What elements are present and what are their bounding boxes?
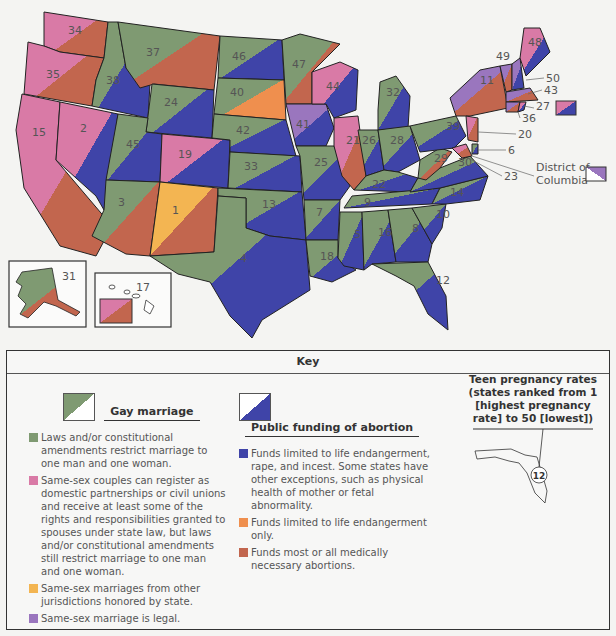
rank-mi: 32 xyxy=(386,86,400,99)
abortion-funding-column: Public funding of abortion Funds limited… xyxy=(239,393,435,576)
rank-wv: 29 xyxy=(434,152,448,165)
rank-nj: 20 xyxy=(518,128,532,141)
abortion-funding-swatch-icon xyxy=(239,393,271,421)
rank-ak: 31 xyxy=(62,270,76,283)
orange-swatch-icon xyxy=(239,518,248,527)
dc-callout-swatch xyxy=(586,167,606,181)
rank-tn: 9 xyxy=(364,196,371,209)
teen-pregnancy-column: Teen pregnancy rates (states ranked from… xyxy=(463,373,603,507)
abortion-funding-header: Public funding of abortion xyxy=(239,393,435,437)
rank-ri: 27 xyxy=(536,100,550,113)
teen-pregnancy-heading-1: Teen pregnancy rates xyxy=(463,373,603,386)
state-nm xyxy=(150,182,218,256)
teen-pregnancy-heading-4: rate] to 50 [lowest]) xyxy=(463,412,603,425)
legend-item-restrict: Laws and/or constitutional amendments re… xyxy=(29,431,227,470)
gay-marriage-heading: Gay marriage xyxy=(104,405,199,421)
rank-hi: 17 xyxy=(136,281,150,294)
legend-item-most-all: Funds most or all medically necessary ab… xyxy=(239,546,435,572)
rank-fl: 12 xyxy=(436,274,450,287)
rank-id: 38 xyxy=(106,74,120,87)
rank-in: 26 xyxy=(362,134,376,147)
rank-vt: 49 xyxy=(496,50,510,63)
gay-marriage-swatch-icon xyxy=(63,393,95,421)
rank-mt: 37 xyxy=(146,46,160,59)
rank-md: 23 xyxy=(504,170,518,183)
state-ri xyxy=(518,102,526,112)
rank-tx: 4 xyxy=(240,252,247,265)
rank-ut: 45 xyxy=(126,138,140,151)
state-ny xyxy=(450,66,508,116)
key-title: Key xyxy=(7,351,609,374)
brown-swatch-icon xyxy=(239,548,248,557)
rank-ga: 8 xyxy=(412,222,419,235)
rank-sd: 40 xyxy=(230,86,244,99)
dc-label-line2: Columbia xyxy=(536,174,588,187)
rank-va: 30 xyxy=(458,156,472,169)
teen-pregnancy-heading-2: (states ranked from 1 xyxy=(463,386,603,399)
rank-il: 21 xyxy=(346,134,360,147)
map-key: Key Gay marriage Laws and/or constitutio… xyxy=(6,350,610,630)
rank-ks: 33 xyxy=(244,160,258,173)
rank-sc: 10 xyxy=(436,208,450,221)
teen-pregnancy-heading-3: [highest pregnancy xyxy=(463,399,603,412)
rank-ca: 15 xyxy=(32,126,46,139)
rank-ma: 43 xyxy=(544,84,558,97)
rank-wa: 34 xyxy=(68,24,82,37)
state-mi xyxy=(378,76,410,130)
gay-marriage-header: Gay marriage xyxy=(63,393,227,421)
rank-wy: 24 xyxy=(164,96,178,109)
rank-me: 48 xyxy=(528,36,542,49)
rank-de: 6 xyxy=(508,144,515,157)
purple-swatch-icon xyxy=(29,614,38,623)
state-hi-swatch xyxy=(100,299,132,323)
rank-la: 18 xyxy=(320,250,334,263)
rank-nd: 46 xyxy=(232,50,246,63)
rank-wi: 44 xyxy=(326,80,340,93)
rank-mo: 25 xyxy=(314,156,328,169)
state-wy xyxy=(146,84,214,138)
rank-ar: 7 xyxy=(316,206,323,219)
ri-callout-swatch xyxy=(556,101,576,115)
us-map: 34 35 15 2 38 37 24 45 19 3 1 46 40 42 3… xyxy=(0,0,616,340)
legend-item-honored: Same-sex marriages from other jurisdicti… xyxy=(29,582,227,608)
rank-az: 3 xyxy=(118,196,125,209)
state-de xyxy=(472,144,478,154)
rank-nv: 2 xyxy=(80,122,87,135)
state-ms xyxy=(338,212,364,270)
rank-oh: 28 xyxy=(390,134,404,147)
green-swatch-icon xyxy=(29,433,38,442)
rank-ok: 13 xyxy=(262,198,276,211)
state-fl xyxy=(372,262,448,330)
state-sd xyxy=(214,78,286,120)
rank-mn: 47 xyxy=(292,58,306,71)
rank-or: 35 xyxy=(46,68,60,81)
pink-swatch-icon xyxy=(29,476,38,485)
dc-label-line1: District of xyxy=(536,161,591,174)
florida-example-icon: 12 xyxy=(463,427,603,507)
rank-pa: 39 xyxy=(446,120,460,133)
rank-co: 19 xyxy=(178,148,192,161)
rank-ky: 22 xyxy=(372,178,386,191)
state-ia xyxy=(286,104,334,146)
rank-nm: 1 xyxy=(172,204,179,217)
yellow-swatch-icon xyxy=(29,584,38,593)
legend-item-partnerships: Same-sex couples can register as domesti… xyxy=(29,474,227,578)
gay-marriage-column: Gay marriage Laws and/or constitutional … xyxy=(29,393,227,629)
legend-item-limited-exceptions: Funds limited to life endangerment, rape… xyxy=(239,447,435,512)
abortion-funding-heading: Public funding of abortion xyxy=(245,421,419,437)
blue-swatch-icon xyxy=(239,449,248,458)
state-ks xyxy=(228,152,302,192)
rank-ny: 11 xyxy=(480,74,494,87)
rank-ms: 5 xyxy=(354,228,361,241)
rank-ne: 42 xyxy=(236,124,250,137)
rank-ia: 41 xyxy=(296,118,310,131)
legend-item-life-only: Funds limited to life endangerment only. xyxy=(239,516,435,542)
state-co xyxy=(160,134,230,188)
rank-ct: 36 xyxy=(522,112,536,125)
florida-example-rank: 12 xyxy=(533,471,546,481)
state-nj xyxy=(466,116,478,142)
legend-item-legal: Same-sex marriage is legal. xyxy=(29,612,227,625)
rank-nc: 14 xyxy=(450,186,464,199)
state-nd xyxy=(218,36,284,80)
rank-al: 16 xyxy=(378,226,392,239)
